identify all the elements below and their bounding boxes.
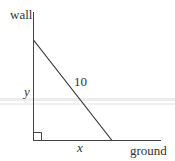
wall-label: wall [10,8,32,21]
ground-label: ground [130,144,167,157]
scan-band-2 [0,103,175,105]
base-label: x [77,141,83,154]
ladder-diagram [0,0,175,161]
ladder-length-label: 10 [74,75,87,88]
height-label: y [24,85,30,98]
ladder-line [34,40,113,141]
right-angle-marker [34,133,42,141]
